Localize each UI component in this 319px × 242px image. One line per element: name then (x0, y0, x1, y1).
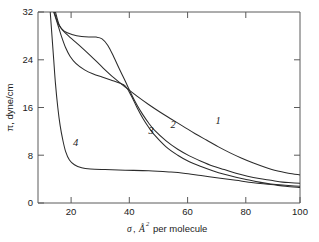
y-tick-label-16: 16 (22, 102, 33, 113)
x-tick-label-100: 100 (292, 206, 308, 217)
x-axis-ticks (71, 12, 300, 203)
curve-1 (55, 12, 300, 175)
y-tick-label-24: 24 (22, 54, 33, 65)
curve-2 (54, 12, 300, 183)
surface-pressure-area-isotherm-chart: 20 40 60 80 100 0 8 16 24 32 π, dyne/cm … (0, 0, 319, 242)
curve-label-1: 1 (216, 115, 221, 126)
figure-container: 20 40 60 80 100 0 8 16 24 32 π, dyne/cm … (0, 0, 319, 242)
x-axis-title-comma: , (133, 223, 136, 234)
x-axis-title: σ , Å 2 per molecule (127, 220, 207, 234)
y-axis-ticks (38, 12, 300, 203)
y-tick-label-8: 8 (28, 150, 33, 161)
x-axis-title-suffix: per molecule (153, 223, 207, 234)
curve-label-3: 3 (148, 125, 154, 136)
y-tick-labels: 0 8 16 24 32 (22, 6, 33, 208)
x-tick-labels: 20 40 60 80 100 (66, 206, 308, 217)
axis-frame-path (38, 12, 300, 203)
x-tick-label-80: 80 (241, 206, 252, 217)
curve-label-2: 2 (170, 119, 176, 130)
curve-label-4: 4 (73, 137, 79, 148)
y-tick-label-0: 0 (28, 197, 33, 208)
plot-axes-frame (38, 12, 300, 203)
y-tick-label-32: 32 (22, 6, 33, 17)
x-axis-title-unit: Å (138, 223, 145, 234)
x-tick-label-20: 20 (66, 206, 77, 217)
y-axis-title: π, dyne/cm (4, 84, 15, 132)
x-tick-label-60: 60 (182, 206, 193, 217)
curve-3 (54, 12, 300, 186)
x-axis-title-superscript: 2 (146, 220, 150, 227)
curve-4 (50, 12, 300, 187)
x-axis-title-symbol: σ (127, 224, 132, 234)
x-tick-label-40: 40 (124, 206, 135, 217)
data-curves-group (50, 12, 300, 187)
